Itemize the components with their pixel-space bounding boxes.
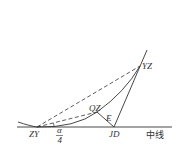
circular-curve xyxy=(18,66,140,127)
label-e: E xyxy=(105,113,112,123)
curve-diagram: ZY YZ QZ E JD 中线 α 4 xyxy=(0,0,180,154)
fraction-denominator-four: 4 xyxy=(58,135,63,145)
label-zy: ZY xyxy=(29,129,40,139)
fraction-numerator-alpha: α xyxy=(57,125,62,135)
label-qz: QZ xyxy=(89,103,101,113)
long-chord-dashed xyxy=(37,66,140,127)
label-centerline: 中线 xyxy=(146,129,164,140)
label-yz: YZ xyxy=(142,61,153,71)
label-jd: JD xyxy=(109,129,120,139)
